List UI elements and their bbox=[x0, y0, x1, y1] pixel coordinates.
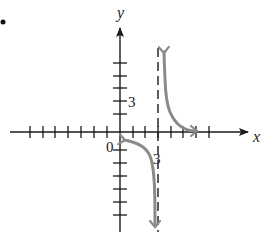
x-tick-label-3: 3 bbox=[153, 151, 161, 167]
curve-right-branch bbox=[164, 52, 196, 131]
y-tick-label-3: 3 bbox=[128, 94, 136, 110]
origin-label: 0 bbox=[106, 139, 114, 155]
y-axis bbox=[113, 28, 127, 232]
x-axis bbox=[10, 126, 248, 138]
y-axis-label: y bbox=[115, 4, 125, 22]
list-bullet bbox=[1, 20, 6, 25]
graph-figure: y x 0 3 3 bbox=[0, 0, 266, 238]
x-axis-label: x bbox=[252, 128, 260, 145]
curve-left-branch bbox=[124, 140, 155, 226]
